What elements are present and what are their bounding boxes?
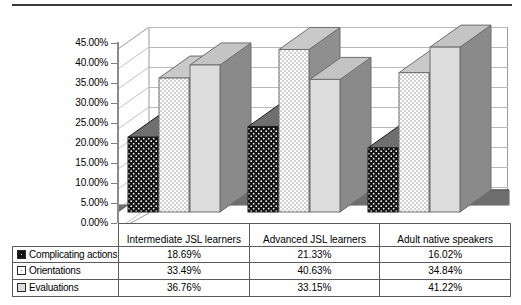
legend-swatch-icon: [17, 266, 26, 275]
legend-label: Evaluations: [29, 283, 79, 293]
bar-3-group-2: [310, 57, 371, 212]
table-cell: 18.69%: [119, 247, 250, 262]
legend-label: Orientations: [29, 266, 81, 276]
table-row: Orientations 33.49% 40.63% 34.84%: [13, 263, 510, 279]
legend-item-orientations: Orientations: [13, 263, 119, 278]
table-cell: 33.49%: [119, 263, 250, 278]
table-row: Complicating actions 18.69% 21.33% 16.02…: [13, 247, 510, 263]
legend-swatch-icon: [17, 283, 26, 292]
table-cell: 36.76%: [119, 280, 250, 296]
table-cell: 21.33%: [250, 247, 381, 262]
top-divider-rule: [12, 4, 512, 6]
table-cell: 16.02%: [380, 247, 510, 262]
table-cell: 34.84%: [380, 263, 510, 278]
legend-item-evaluations: Evaluations: [13, 280, 119, 296]
bar-3-group-3: [430, 25, 491, 212]
table-row: Evaluations 36.76% 33.15% 41.22%: [13, 280, 510, 296]
table-cell: 40.63%: [250, 263, 381, 278]
data-table: Complicating actions 18.69% 21.33% 16.02…: [12, 246, 511, 297]
table-cell: 33.15%: [250, 280, 381, 296]
table-cell: 41.22%: [380, 280, 510, 296]
legend-swatch-icon: [17, 250, 26, 259]
bar-chart: 45.00% 40.00% 35.00% 30.00% 25.00% 20.00…: [0, 10, 521, 242]
legend-item-complicating-actions: Complicating actions: [13, 247, 119, 262]
legend-label: Complicating actions: [29, 250, 117, 260]
bars-layer: [0, 10, 521, 242]
bar-3-group-1: [190, 43, 251, 212]
